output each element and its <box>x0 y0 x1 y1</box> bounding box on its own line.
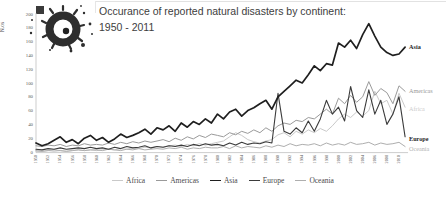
y-tick-label: 20 <box>28 136 33 141</box>
x-tick-label: 2010 <box>396 155 401 163</box>
legend-item-africa: Africa <box>112 176 145 185</box>
legend-item-asia: Asia <box>210 176 238 185</box>
x-tick-label: 1950 <box>33 155 38 163</box>
y-tick-label: 160 <box>26 39 34 44</box>
x-tick-label: 1972 <box>166 155 171 163</box>
legend-item-oceania: Oceania <box>295 176 334 185</box>
legend-swatch-americas <box>156 180 167 181</box>
legend-label-europe: Europe <box>263 176 285 185</box>
legend-label-asia: Asia <box>224 176 238 185</box>
x-tick-label: 1998 <box>324 155 329 163</box>
series-end-label-oceania: Oceania <box>409 145 430 152</box>
x-tick-label: 1964 <box>118 154 123 163</box>
y-tick-label: 180 <box>26 25 34 30</box>
x-tick-label: 1952 <box>45 155 50 163</box>
x-tick-label: 2000 <box>336 155 341 163</box>
x-tick-label: 1994 <box>299 154 304 163</box>
series-end-label-europe: Europe <box>409 135 429 142</box>
legend-label-africa: Africa <box>126 176 145 185</box>
chart-canvas: Occurance of reported natural disasters … <box>0 0 446 198</box>
legend-label-oceania: Oceania <box>309 176 334 185</box>
x-tick-label: 1982 <box>227 155 232 163</box>
y-tick-label: 60 <box>28 108 33 113</box>
series-end-label-africa: Africa <box>409 105 425 112</box>
y-tick-label: 40 <box>28 122 33 127</box>
y-tick-label: 200 <box>26 12 34 17</box>
y-tick-label: 140 <box>26 53 34 58</box>
x-tick-label: 2004 <box>360 154 365 163</box>
x-tick-label: 1968 <box>142 155 147 163</box>
x-tick-label: 1956 <box>70 155 75 163</box>
x-tick-label: 1978 <box>203 155 208 163</box>
x-tick-label: 1980 <box>215 155 220 163</box>
x-tick-label: 1958 <box>82 155 87 163</box>
x-tick-label: 1970 <box>154 155 159 163</box>
legend-swatch-oceania <box>295 180 306 181</box>
x-tick-label: 1962 <box>106 155 111 163</box>
x-tick-label: 2002 <box>348 155 353 163</box>
series-end-label-americas: Americas <box>409 87 433 94</box>
legend-item-americas: Americas <box>156 176 199 185</box>
series-line-oceania <box>36 142 405 151</box>
y-tick-label: 100 <box>26 81 34 86</box>
x-tick-label: 1990 <box>275 155 280 163</box>
x-tick-label: 1984 <box>239 154 244 163</box>
y-tick-label: 120 <box>26 67 34 72</box>
plot-area: 0204060801001201401601802001950195219541… <box>0 0 446 198</box>
legend-item-europe: Europe <box>249 176 285 185</box>
x-tick-label: 1966 <box>130 155 135 163</box>
x-tick-label: 2008 <box>384 155 389 163</box>
legend-label-americas: Americas <box>170 176 199 185</box>
y-tick-label: 0 <box>31 150 34 155</box>
x-tick-label: 1986 <box>251 155 256 163</box>
x-tick-label: 1974 <box>178 154 183 163</box>
x-tick-label: 1988 <box>263 155 268 163</box>
x-tick-label: 1976 <box>191 155 196 163</box>
x-tick-label: 1954 <box>57 154 62 163</box>
x-tick-label: 1996 <box>312 155 317 163</box>
legend-swatch-europe <box>249 180 260 181</box>
series-line-asia <box>36 24 405 146</box>
legend-swatch-asia <box>210 180 221 181</box>
legend: AfricaAmericasAsiaEuropeOceania <box>0 176 446 185</box>
x-tick-label: 1992 <box>287 155 292 163</box>
x-tick-label: 1960 <box>94 155 99 163</box>
legend-swatch-africa <box>112 180 123 181</box>
series-end-label-asia: Asia <box>409 43 421 50</box>
y-tick-label: 80 <box>28 94 33 99</box>
x-tick-label: 2006 <box>372 155 377 163</box>
